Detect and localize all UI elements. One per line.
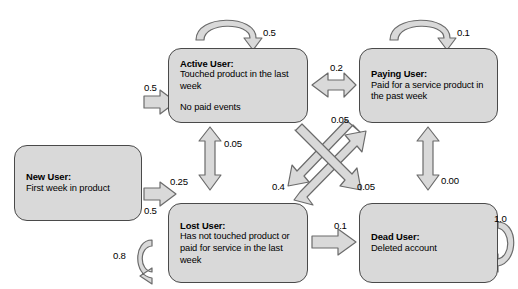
state-extra-active-user: No paid events xyxy=(180,102,297,114)
edge-label-paying-dead: 0.00 xyxy=(441,175,459,186)
edge-label-active-to-dead: 0.05 xyxy=(357,181,375,192)
edge-label-active-paying: 0.2 xyxy=(330,62,343,73)
edge-active-self-loop xyxy=(196,20,262,50)
state-desc-lost-user: Has not touched product or paid for serv… xyxy=(180,231,297,266)
edge-active-paying-double-arrow xyxy=(312,73,356,97)
state-title-dead-user: Dead User: xyxy=(371,231,487,243)
edge-label-active-self: 0.5 xyxy=(263,27,276,38)
edge-lost-to-dead-arrow xyxy=(312,229,356,255)
state-desc-paying-user: Paid for a service product in the past w… xyxy=(371,80,487,103)
state-node-paying-user[interactable]: Paying User: Paid for a service product … xyxy=(359,48,498,123)
state-desc-new-user: First week in product xyxy=(26,183,131,195)
edge-label-paying-self: 0.1 xyxy=(457,27,470,38)
edge-label-dead-self: 1.0 xyxy=(494,213,507,224)
state-node-new-user[interactable]: New User: First week in product xyxy=(14,145,142,221)
edge-label-lost-to-active: 0.05 xyxy=(224,138,242,149)
edge-label-lost-to-paying: 0.05 xyxy=(331,114,349,125)
edge-label-active-to-lost: 0.25 xyxy=(170,176,188,187)
edge-paying-dead-double-arrow xyxy=(417,127,439,190)
edge-label-lost-self: 0.8 xyxy=(113,250,126,261)
state-node-lost-user[interactable]: Lost User: Has not touched product or pa… xyxy=(168,203,308,283)
state-title-new-user: New User: xyxy=(26,171,131,183)
edge-label-lost-to-dead: 0.1 xyxy=(334,220,347,231)
state-title-paying-user: Paying User: xyxy=(371,68,487,80)
state-desc-dead-user: Deleted account xyxy=(371,243,487,255)
state-node-dead-user[interactable]: Dead User: Deleted account xyxy=(359,203,498,283)
edge-lost-self-loop xyxy=(138,240,152,284)
edge-active-lost-double-arrow xyxy=(199,127,221,190)
state-title-lost-user: Lost User: xyxy=(180,220,297,232)
state-diagram: .blk { fill: #d9d9d9; stroke: #6b6b6b; s… xyxy=(0,0,518,289)
edge-label-new-to-lost: 0.5 xyxy=(144,205,157,216)
state-title-active-user: Active User: xyxy=(180,58,297,70)
edge-paying-self-loop xyxy=(390,20,456,50)
edge-label-paying-to-lost: 0.4 xyxy=(272,181,285,192)
state-desc-active-user: Touched product in the last week xyxy=(180,69,297,92)
edge-label-new-to-active: 0.5 xyxy=(144,82,157,93)
state-node-active-user[interactable]: Active User: Touched product in the last… xyxy=(168,48,308,123)
